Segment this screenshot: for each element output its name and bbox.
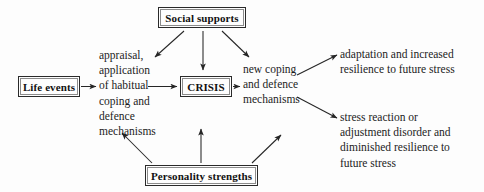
node-life-events[interactable]: Life events xyxy=(18,76,80,97)
text-adaptation-outcome: adaptation and increased resilience to f… xyxy=(340,47,484,77)
node-social-supports[interactable]: Social supports xyxy=(158,7,246,28)
text-new-coping-block: new coping and defence mechanisms xyxy=(243,62,327,108)
node-social-supports-label: Social supports xyxy=(165,12,238,24)
diagram-canvas: Social supports Life events CRISIS Perso… xyxy=(0,0,484,192)
text-appraisal-block: appraisal, application of habitual copin… xyxy=(99,48,177,139)
arrow-personality-strengths-to-new-coping xyxy=(252,135,281,163)
node-crisis[interactable]: CRISIS xyxy=(180,76,232,97)
node-personality-strengths[interactable]: Personality strengths xyxy=(145,165,258,186)
node-personality-strengths-label: Personality strengths xyxy=(151,170,252,182)
node-life-events-label: Life events xyxy=(23,81,75,93)
node-crisis-label: CRISIS xyxy=(187,81,224,93)
text-stress-reaction-outcome: stress reaction or adjustment disorder a… xyxy=(340,110,484,171)
arrow-social-supports-to-new-coping xyxy=(222,31,249,57)
